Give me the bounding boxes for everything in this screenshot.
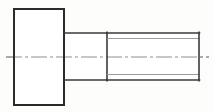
bolt-drawing-svg [0, 0, 214, 112]
technical-drawing-canvas [0, 0, 214, 112]
